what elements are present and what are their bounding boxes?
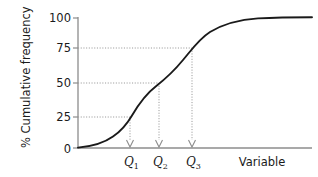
y-tick-label-25: 25: [56, 110, 71, 124]
y-axis-title: % Cumulative frequency: [19, 6, 33, 148]
y-tick-label-100: 100: [49, 11, 71, 25]
annotation-label-q3: Q3: [186, 155, 201, 171]
y-tick-label-75: 75: [56, 41, 71, 55]
annotation-label-q1: Q1: [124, 155, 139, 171]
arrow-down-icon-q2: [156, 140, 163, 147]
arrow-down-icon-q3: [189, 140, 196, 147]
x-axis-title: Variable: [239, 155, 286, 169]
y-tick-label-50: 50: [56, 76, 71, 90]
ogive-curve: [78, 17, 312, 147]
chart-canvas: % Cumulative frequency 100 75 50 25 0 Q1: [0, 0, 318, 177]
annotation-label-q2: Q2: [153, 155, 168, 171]
y-tick-label-0: 0: [64, 142, 71, 156]
arrow-down-icon-q1: [127, 140, 134, 147]
cumulative-frequency-chart: % Cumulative frequency 100 75 50 25 0 Q1: [0, 0, 318, 177]
